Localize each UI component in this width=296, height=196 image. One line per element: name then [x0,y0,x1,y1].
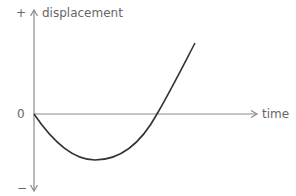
displacement-time-graph [0,0,296,196]
x-axis-label: time [262,108,289,120]
positive-sign: + [16,7,26,19]
y-axis-label: displacement [42,7,123,19]
negative-sign: − [17,182,27,194]
displacement-curve [34,43,195,160]
origin-label: 0 [17,108,25,120]
